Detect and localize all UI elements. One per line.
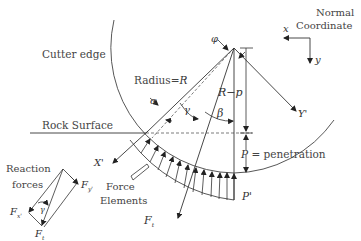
force-elements-pointer — [131, 164, 149, 180]
reaction-label: Reaction — [6, 163, 51, 174]
force-label: Force — [106, 181, 135, 192]
y-prime-axis — [234, 48, 296, 111]
x-prime-label: X' — [93, 157, 104, 168]
penetration-label: P = penetration — [240, 148, 326, 160]
ft-main-label: Ft — [143, 214, 155, 228]
fy-label: Fy' — [80, 179, 93, 193]
y-prime-label: Y' — [298, 108, 307, 119]
cutter-edge-label: Cutter edge — [42, 48, 106, 60]
reaction-forces-diagram — [29, 169, 78, 227]
axis-x-label: x — [283, 23, 289, 34]
gamma-lower-arrow — [166, 120, 172, 121]
fx-label: Fx' — [9, 206, 22, 219]
axis-y-label: y — [314, 54, 321, 65]
ft-label: Ft — [34, 228, 45, 241]
gamma-small-label: γ — [40, 205, 45, 214]
phi-arrow — [218, 40, 228, 50]
upper-angle-arrow — [239, 52, 245, 58]
elements-label: Elements — [100, 195, 147, 206]
r-minus-p-label: R−p — [217, 86, 243, 99]
normal-label: Normal — [316, 7, 354, 18]
phi-label: φ — [211, 33, 218, 44]
force-element-arrows — [141, 139, 234, 200]
cutter-force-diagram: Cutter edge Normal Coordinate x y Radius… — [0, 0, 361, 241]
x-prime-axis — [113, 131, 148, 163]
forces-label: forces — [12, 179, 43, 190]
rock-surface-label: Rock Surface — [42, 119, 113, 131]
radius-label: Radius=R — [134, 74, 187, 86]
coordinate-label: Coordinate — [296, 20, 352, 31]
gamma-label: γ — [184, 104, 190, 115]
alpha-label: α — [150, 95, 157, 106]
p-prime-label: P' — [241, 190, 252, 202]
beta-label: β — [216, 107, 223, 120]
